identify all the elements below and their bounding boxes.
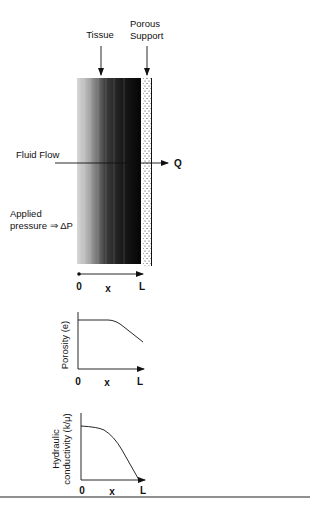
- porous-support-label-line1: Porous: [130, 18, 160, 29]
- hydraulic-curve: [81, 426, 139, 480]
- tissue-label-group: Tissue: [86, 29, 114, 75]
- tissue-perfusion-diagram: Tissue Porous Support Fluid Flow Q Appli…: [0, 0, 310, 507]
- porous-support-label-group: Porous Support: [130, 18, 164, 75]
- porosity-xtick-0: 0: [75, 376, 81, 387]
- porosity-curve: [78, 320, 143, 342]
- hydraulic-conductivity-plot: Hydraulic conductivity (k/μ) 0 x L: [50, 413, 146, 497]
- porosity-ylabel: Porosity (e): [59, 321, 70, 370]
- porosity-xtick-x: x: [104, 377, 110, 388]
- hydraulic-xtick-L: L: [140, 485, 146, 496]
- fluid-flow-label: Fluid Flow: [16, 149, 59, 160]
- hydraulic-xtick-0: 0: [79, 485, 85, 496]
- axis-label-L: L: [139, 281, 145, 292]
- axis-label-0: 0: [76, 281, 82, 292]
- hydraulic-xtick-x: x: [109, 486, 115, 497]
- porous-support-label-line2: Support: [130, 30, 164, 41]
- axis-label-x: x: [105, 283, 111, 294]
- porosity-plot: Porosity (e) 0 x L: [59, 312, 144, 388]
- hydraulic-ylabel-line1: Hydraulic: [50, 429, 61, 469]
- porosity-xtick-L: L: [137, 376, 143, 387]
- tissue-label: Tissue: [86, 29, 114, 40]
- flow-out-label: Q: [174, 158, 182, 169]
- applied-pressure-label-line1: Applied: [10, 208, 42, 219]
- porous-support: [143, 78, 151, 266]
- hydraulic-ylabel-line2: conductivity (k/μ): [61, 413, 72, 484]
- applied-pressure-label-line2: pressure ⇒ ΔP: [10, 220, 73, 231]
- tissue-block: [77, 78, 141, 264]
